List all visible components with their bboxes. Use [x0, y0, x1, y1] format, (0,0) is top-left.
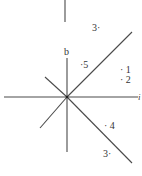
label-bottom-three: 3· — [103, 148, 111, 159]
label-two: · 2 — [120, 74, 131, 85]
label-five: ·5 — [80, 59, 88, 70]
label-axis-end: i — [138, 92, 141, 102]
line-diagram: 3· b ·5 · 1 · 2 · 4 3· i — [0, 0, 142, 176]
diagonal-lower-right — [67, 97, 132, 163]
label-four: · 4 — [104, 120, 115, 131]
label-top-three: 3· — [92, 22, 100, 33]
center-point — [66, 96, 69, 99]
label-b: b — [64, 46, 69, 57]
diagonal-upper-left — [45, 77, 67, 97]
diagonal-lower-left — [40, 97, 67, 128]
